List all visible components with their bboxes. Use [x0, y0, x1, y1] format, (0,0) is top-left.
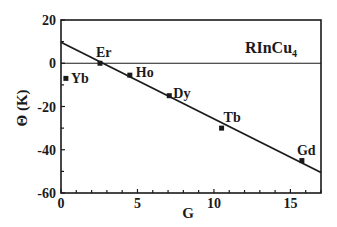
x-tick-label: 10	[207, 196, 221, 211]
x-tick-label: 0	[58, 196, 65, 211]
x-tick-label: 15	[283, 196, 297, 211]
data-point-er	[98, 61, 103, 66]
data-point-tb	[219, 126, 224, 131]
point-label-gd: Gd	[297, 143, 316, 158]
chart-title: RInCu4	[245, 39, 297, 59]
y-tick-label: 0	[49, 56, 56, 71]
point-label-dy: Dy	[173, 86, 190, 101]
y-tick-label: -60	[37, 186, 56, 201]
point-label-tb: Tb	[224, 110, 241, 125]
y-tick-label: -20	[37, 100, 56, 115]
chart: 051015200-20-40-60 YbErHoDyTbGd RInCu4 G…	[0, 0, 337, 227]
y-axis-label: Θ (K)	[14, 89, 31, 126]
y-tick-label: -40	[37, 143, 56, 158]
data-point-yb	[63, 76, 68, 81]
x-axis-label: G	[182, 205, 194, 221]
data-point-gd	[299, 158, 304, 163]
x-tick-label: 5	[134, 196, 141, 211]
point-label-ho: Ho	[136, 65, 154, 80]
data-point-dy	[167, 93, 172, 98]
data-point-ho	[127, 73, 132, 78]
point-label-yb: Yb	[71, 71, 89, 86]
point-label-er: Er	[96, 45, 112, 60]
y-tick-label: 20	[42, 13, 56, 28]
